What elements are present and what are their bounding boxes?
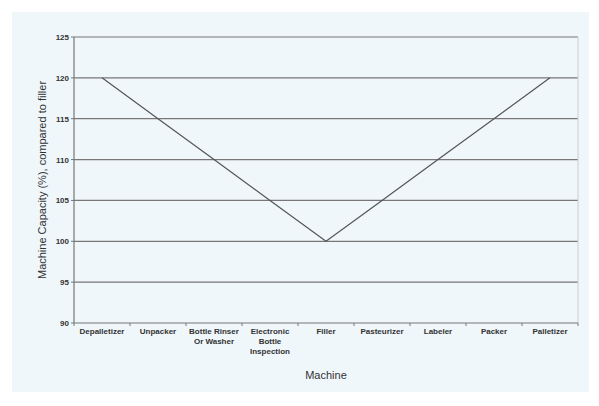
y-tick-label: 95: [60, 278, 69, 287]
x-category-label: Or Washer: [194, 337, 234, 346]
x-category-label: Depalletizer: [80, 327, 125, 336]
x-axis-title: Machine: [305, 369, 347, 381]
x-category-label: Bottle: [259, 337, 282, 346]
y-axis-title: Machine Capacity (%), compared to filler: [36, 81, 48, 279]
y-tick-label: 100: [56, 237, 70, 246]
x-category-label: Palletizer: [532, 327, 567, 336]
x-category-label: Bottle Rinser: [189, 327, 239, 336]
x-category-label: Labeler: [424, 327, 452, 336]
y-tick-label: 125: [56, 33, 70, 42]
x-category-label: Electronic: [251, 327, 290, 336]
x-category-label: Pasteurizer: [360, 327, 403, 336]
line-chart: 9095100105110115120125DepalletizerUnpack…: [0, 0, 599, 406]
y-tick-label: 120: [56, 74, 70, 83]
y-tick-label: 90: [60, 319, 69, 328]
y-tick-label: 105: [56, 196, 70, 205]
y-tick-label: 110: [56, 156, 69, 165]
x-category-label: Inspection: [250, 347, 290, 356]
y-tick-label: 115: [56, 115, 69, 124]
x-category-label: Filler: [316, 327, 335, 336]
x-category-label: Unpacker: [140, 327, 176, 336]
x-category-label: Packer: [481, 327, 507, 336]
